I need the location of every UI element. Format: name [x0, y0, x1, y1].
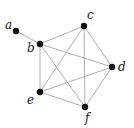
node-c: [81, 23, 87, 29]
edge-c-d: [84, 26, 112, 67]
edge-e-f: [40, 92, 85, 107]
node-f: [82, 104, 88, 110]
node-label-f: f: [84, 111, 92, 125]
node-label-e: e: [27, 93, 34, 107]
node-label-a: a: [5, 18, 12, 32]
edge-d-e: [40, 67, 112, 92]
node-d: [109, 64, 115, 70]
edge-d-f: [85, 67, 112, 107]
node-a: [13, 28, 19, 34]
edge-c-f: [84, 26, 85, 107]
edge-b-d: [40, 44, 112, 67]
edge-c-e: [40, 26, 84, 92]
graph-diagram: abcdef: [0, 0, 134, 128]
node-label-b: b: [27, 41, 35, 55]
node-label-d: d: [118, 60, 126, 74]
edge-b-c: [40, 26, 84, 44]
node-b: [37, 41, 43, 47]
node-e: [37, 89, 43, 95]
edge-b-f: [40, 44, 85, 107]
labels: abcdef: [5, 8, 126, 125]
node-label-c: c: [87, 8, 94, 22]
